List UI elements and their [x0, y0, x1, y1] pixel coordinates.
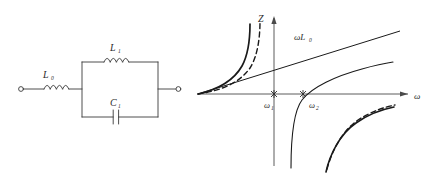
label-C1-subscript: 1: [118, 103, 121, 109]
left-terminal-node: [19, 87, 24, 92]
omega-L0-label-subscript: 0: [309, 37, 312, 43]
label-C1: C: [110, 97, 117, 108]
impedance-plot-svg: Z ω ω 1 ω: [190, 0, 426, 178]
reactance-branch-2-solid-curve: [291, 62, 393, 168]
label-L1: L: [109, 42, 116, 53]
reactance-branch-3-solid-curve: [326, 107, 394, 172]
reactance-branch-1-solid-curve: [198, 24, 250, 94]
omega1-label: ω: [264, 100, 270, 110]
reactance-branch-1-dashed-curve: [198, 21, 260, 94]
x-axis-arrow-icon: [400, 91, 408, 96]
label-L0: L: [42, 69, 49, 80]
y-axis-label: Z: [258, 13, 264, 24]
reactance-branch-3-dashed-curve: [327, 105, 395, 169]
figure-root: L 0 L 1 C 1 Z ω: [0, 0, 426, 178]
inductor-L0-symbol: [44, 85, 69, 89]
right-terminal-node: [176, 87, 181, 92]
omega2-label: ω: [309, 100, 315, 110]
label-L0-subscript: 0: [51, 75, 54, 81]
inductor-L1-symbol: [104, 58, 129, 62]
omega1-label-subscript: 1: [271, 105, 274, 111]
omega-L0-label: ωL: [294, 32, 305, 42]
circuit-diagram-panel: L 0 L 1 C 1: [0, 0, 200, 178]
y-axis-arrow-icon: [271, 16, 276, 24]
impedance-plot-panel: Z ω ω 1 ω: [190, 0, 426, 178]
x-axis-label: ω: [414, 91, 420, 101]
circuit-svg: L 0 L 1 C 1: [0, 0, 200, 178]
label-L1-subscript: 1: [118, 48, 121, 54]
omega2-label-subscript: 2: [316, 105, 319, 111]
